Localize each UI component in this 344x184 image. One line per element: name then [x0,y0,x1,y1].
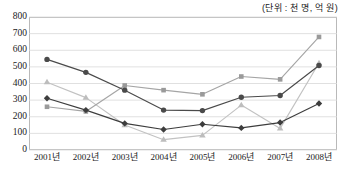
data-point [83,70,88,75]
data-point [277,125,283,131]
gridlines [29,17,337,150]
y-tick-label: 100 [1,128,27,138]
data-point [161,88,166,93]
data-point [44,95,50,101]
y-tick-label: 0 [1,145,27,155]
x-tick-label: 2003년 [112,152,138,163]
data-point [316,100,322,106]
y-tick-label: 500 [1,62,27,72]
data-point [160,126,166,132]
data-point [122,87,127,92]
data-point [45,104,50,109]
y-tick-label: 300 [1,95,27,105]
line-chart: (단위 : 천 명, 억 원) 010020030040050060070080… [0,0,344,184]
y-axis: 0100200300400500600700800 [0,0,27,184]
data-point [161,107,166,112]
data-point [44,79,50,85]
plot-canvas [29,17,337,150]
x-tick-label: 2002년 [73,152,99,163]
data-point [239,74,244,79]
unit-note: (단위 : 천 명, 억 원) [262,1,338,14]
x-tick-label: 2007년 [267,152,293,163]
x-tick-label: 2006년 [228,152,254,163]
series-line [47,63,319,140]
data-point [200,108,205,113]
x-tick-label: 2004년 [151,152,177,163]
y-tick-label: 600 [1,45,27,55]
x-tick-label: 2001년 [34,152,60,163]
series-line [47,98,319,129]
x-tick-label: 2005년 [189,152,215,163]
data-point [200,92,205,97]
x-axis: 2001년2002년2003년2004년2005년2006년2007년2008년 [29,152,337,172]
data-point [317,35,322,40]
data-point [238,125,244,131]
data-point [199,121,205,127]
data-point [44,57,49,62]
y-tick-label: 200 [1,112,27,122]
data-point [277,93,282,98]
data-point [238,102,244,108]
data-point [199,132,205,138]
x-tick-label: 2008년 [306,152,332,163]
y-tick-label: 400 [1,79,27,89]
data-point [122,83,127,88]
data-point [239,95,244,100]
data-point [278,77,283,82]
y-tick-label: 700 [1,29,27,39]
series-lines [44,35,322,142]
series-circle [44,57,321,114]
y-tick-label: 800 [1,12,27,22]
data-point [316,63,321,68]
